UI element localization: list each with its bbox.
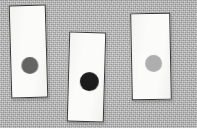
card-middle[interactable] — [67, 32, 106, 123]
card-paper-texture — [10, 6, 48, 98]
card-right[interactable] — [130, 13, 172, 101]
scene-canvas — [0, 0, 197, 128]
card-left[interactable] — [9, 5, 49, 99]
black-dot — [80, 72, 100, 92]
dark-gray-dot — [21, 57, 38, 74]
light-gray-dot — [145, 55, 162, 72]
